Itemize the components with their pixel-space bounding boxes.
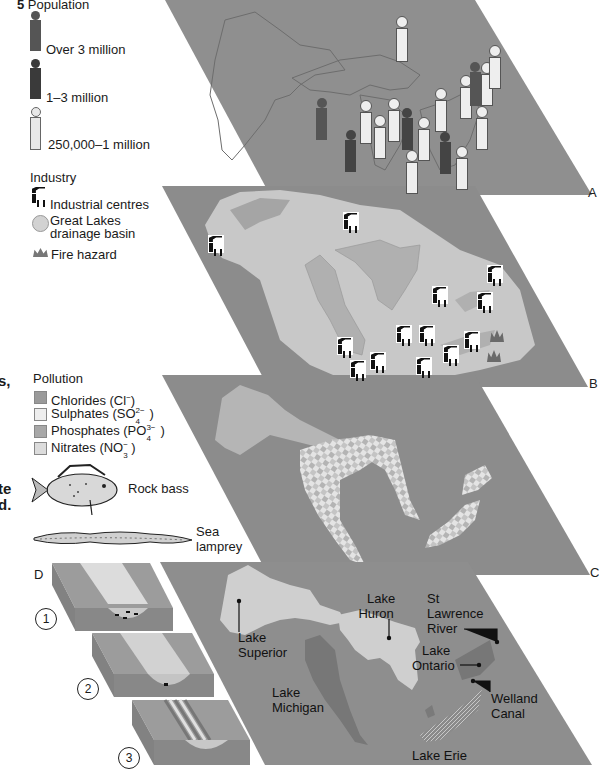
panel-label-b: B bbox=[589, 376, 598, 391]
step-1-badge: 1 bbox=[35, 608, 57, 630]
factory-icon bbox=[396, 325, 412, 343]
industry-item-fire-hazard: Fire hazard bbox=[51, 247, 117, 262]
panel-d-label: D bbox=[34, 567, 43, 582]
pollution-legend-title: Pollution bbox=[33, 371, 83, 386]
person-icon-large bbox=[30, 11, 41, 51]
label-lake-huron: Lake Huron bbox=[357, 591, 395, 621]
industry-markers bbox=[0, 0, 592, 390]
species-sea-lamprey-line1: Sea bbox=[196, 524, 219, 539]
species-rock-bass-label: Rock bass bbox=[128, 481, 189, 496]
text-fragment: s, bbox=[0, 372, 11, 390]
factory-icon bbox=[443, 345, 459, 363]
phosphates-swatch bbox=[34, 425, 47, 438]
factory-icon bbox=[419, 325, 435, 343]
label-welland-canal: Welland Canal bbox=[491, 691, 538, 721]
factory-icon bbox=[370, 352, 386, 370]
fire-hazard-icon bbox=[487, 350, 501, 362]
nitrates-swatch bbox=[34, 442, 47, 455]
sulphates-swatch bbox=[34, 408, 47, 421]
population-legend-title: 5 Population bbox=[17, 0, 89, 12]
chlorides-swatch bbox=[34, 391, 47, 404]
person-icon-medium bbox=[30, 59, 41, 99]
label-lake-ontario: Lake Ontario bbox=[412, 643, 455, 673]
step-2-badge: 2 bbox=[77, 678, 99, 700]
pollution-item-nitrates: Nitrates (NO−3) bbox=[51, 440, 136, 455]
factory-icon bbox=[350, 360, 366, 378]
panel-label-a: A bbox=[588, 185, 597, 200]
factory-icon bbox=[343, 212, 359, 230]
population-item-1-3m: 1–3 million bbox=[46, 90, 108, 105]
factory-icon bbox=[464, 331, 480, 349]
panel-label-c: C bbox=[590, 565, 599, 580]
population-item-250k-1m: 250,000–1 million bbox=[48, 137, 150, 152]
factory-icon bbox=[31, 186, 47, 204]
text-fragment: d. bbox=[0, 496, 11, 514]
population-item-over-3m: Over 3 million bbox=[46, 42, 125, 57]
industry-legend-title: Industry bbox=[30, 170, 76, 185]
label-st-lawrence-river: St Lawrence River bbox=[427, 591, 483, 636]
fire-hazard-icon bbox=[490, 330, 504, 342]
person-icon-small bbox=[30, 107, 41, 150]
basin-circle-icon bbox=[32, 215, 49, 232]
label-lake-superior: Lake Superior bbox=[238, 630, 287, 660]
pollution-item-phosphates: Phosphates (PO3−4) bbox=[51, 423, 165, 438]
industry-item-basin-line2: drainage basin bbox=[50, 226, 135, 241]
species-sea-lamprey-line2: lamprey bbox=[196, 539, 242, 554]
factory-icon bbox=[477, 292, 493, 310]
label-lake-erie: Lake Erie bbox=[412, 748, 467, 763]
step-3-badge: 3 bbox=[118, 747, 140, 769]
industry-item-industrial-centres: Industrial centres bbox=[50, 197, 149, 212]
factory-icon bbox=[337, 337, 353, 355]
factory-icon bbox=[487, 265, 503, 283]
factory-icon bbox=[416, 357, 432, 375]
pollution-item-sulphates: Sulphates (SO2−4) bbox=[51, 406, 154, 421]
label-lake-michigan: Lake Michigan bbox=[272, 685, 324, 715]
factory-icon bbox=[208, 235, 224, 253]
factory-icon bbox=[432, 286, 448, 304]
